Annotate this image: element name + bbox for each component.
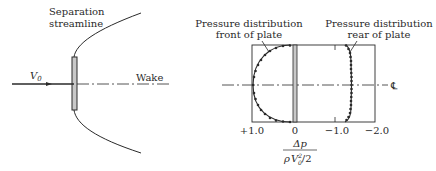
x-tick-zero: 0: [292, 125, 298, 136]
front-label-line2: front of plate: [216, 29, 283, 40]
x-axis-numerator: Δp: [292, 138, 307, 149]
front-pressure-points: [252, 44, 291, 123]
chart-frame: [252, 45, 375, 122]
centerline-symbol: ℄: [390, 80, 398, 91]
velocity-subscript: 0: [37, 75, 42, 83]
rear-label-line1: Pressure distribution: [325, 18, 433, 29]
rear-label-line2: rear of plate: [347, 29, 410, 40]
front-pressure-curve: [253, 45, 290, 122]
denom-rho: ρ: [283, 153, 290, 164]
x-tick-minus1: −1.0: [325, 125, 349, 136]
rear-label-leader: [350, 41, 357, 52]
front-label-line1: Pressure distribution: [195, 18, 303, 29]
x-tick-minus2: −2.0: [365, 125, 389, 136]
velocity-label: V0: [30, 70, 42, 83]
separation-streamline-label-line2: streamline: [49, 18, 103, 29]
wake-label: Wake: [136, 72, 163, 83]
denom-tail: /2: [302, 153, 312, 164]
velocity-arrow-head-icon: [46, 82, 52, 86]
flat-plate-flow-diagram: Separation streamline V0 Wake ℄: [0, 0, 436, 171]
chart-plate: [293, 45, 297, 122]
x-tick-plus1: +1.0: [240, 125, 264, 136]
pressure-distribution-chart: ℄ Press: [195, 18, 433, 166]
separation-streamline-label-line1: Separation: [49, 6, 105, 17]
front-label-leader: [262, 41, 269, 52]
x-axis-denominator: ρV20/2: [283, 152, 312, 166]
x-axis-label: Δp ρV20/2: [283, 138, 317, 166]
left-flow-diagram: Separation streamline V0 Wake: [12, 6, 170, 153]
separation-streamline-lower: [74, 110, 141, 153]
